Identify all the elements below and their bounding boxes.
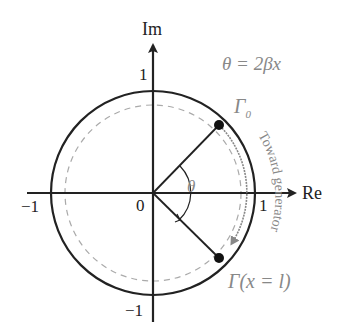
radius-gamma0 (153, 125, 219, 193)
y-tick-1: 1 (139, 65, 148, 84)
toward-generator-label: Toward generator (255, 129, 287, 234)
real-axis-label: Re (302, 183, 322, 203)
imag-axis-label: Im (142, 19, 162, 39)
point-gamma-l (214, 253, 224, 263)
angle-label: θ (187, 177, 195, 196)
origin-label: 0 (136, 196, 145, 215)
x-tick-neg1: −1 (21, 197, 39, 216)
point-gamma0 (214, 120, 224, 130)
smith-reflection-diagram: Im Re 0 −1 1 1 −1 θ = 2βx θ Γ0 Γ(x = l) … (0, 0, 360, 333)
gamma0-label: Γ0 (233, 95, 251, 120)
gamma-l-label: Γ(x = l) (227, 270, 291, 293)
formula-label: θ = 2βx (222, 53, 282, 74)
radius-gamma-l (153, 193, 219, 258)
y-tick-neg1: −1 (125, 301, 143, 320)
x-tick-1: 1 (259, 196, 268, 215)
